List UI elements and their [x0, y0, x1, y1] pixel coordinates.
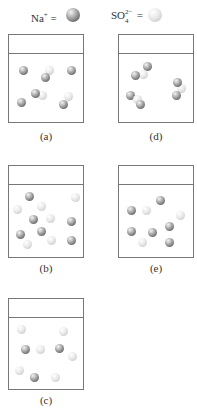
- so4-ion-icon: [176, 211, 185, 220]
- so4-equals: =: [137, 9, 143, 21]
- na-ion-icon: [165, 222, 174, 231]
- beaker-top-band: [119, 166, 193, 185]
- na-ion-icon: [16, 230, 25, 239]
- na-ion-icon: [37, 227, 46, 236]
- na-symbol: Na: [31, 12, 44, 24]
- so4-sphere-icon: [148, 8, 162, 22]
- panel-label-b: (b): [26, 262, 66, 274]
- na-charge: +: [44, 11, 48, 19]
- na-ion-icon: [17, 98, 26, 107]
- panel-label-d: (d): [136, 130, 176, 142]
- so4-ion-icon: [138, 238, 147, 247]
- na-ion-icon: [29, 215, 38, 224]
- so4-ion-icon: [142, 206, 151, 215]
- beaker-top-band: [9, 299, 83, 318]
- so4-ion-icon: [47, 236, 56, 245]
- na-equals: =: [51, 12, 57, 24]
- so4-ion-icon: [68, 352, 77, 361]
- so4-ion-icon: [46, 214, 55, 223]
- panel-label-a: (a): [26, 130, 66, 142]
- so4-ion-icon: [51, 373, 60, 382]
- na-ion-icon: [131, 71, 140, 80]
- na-ion-icon: [31, 89, 40, 98]
- na-ion-icon: [21, 345, 30, 354]
- so4-ion-icon: [23, 240, 32, 249]
- na-ion-icon: [67, 236, 76, 245]
- na-ion-icon: [25, 192, 34, 201]
- na-ion-icon: [19, 66, 28, 75]
- na-ion-icon: [41, 73, 50, 82]
- legend-na-label: Na+ =: [31, 9, 57, 24]
- so4-ion-icon: [17, 325, 26, 334]
- so4-ion-icon: [71, 193, 80, 202]
- na-ion-icon: [136, 100, 145, 109]
- beaker-top-band: [119, 35, 193, 54]
- so4-ion-icon: [37, 202, 46, 211]
- na-ion-icon: [148, 228, 157, 237]
- na-ion-icon: [165, 238, 174, 247]
- legend-so4-label: SO2−4 =: [111, 9, 143, 21]
- so4-ion-icon: [139, 70, 148, 79]
- beaker-top-band: [9, 35, 83, 54]
- na-ion-icon: [67, 66, 76, 75]
- na-ion-icon: [127, 227, 136, 236]
- na-ion-icon: [59, 100, 68, 109]
- so4-subscript: 4: [125, 15, 129, 27]
- na-ion-icon: [172, 91, 181, 100]
- so4-symbol: SO: [111, 9, 125, 21]
- so4-ion-icon: [13, 205, 22, 214]
- na-ion-icon: [173, 78, 182, 87]
- na-ion-icon: [67, 217, 76, 226]
- beaker-d: [118, 34, 194, 123]
- na-ion-icon: [30, 373, 39, 382]
- so4-ion-icon: [64, 92, 73, 101]
- panel-label-c: (c): [26, 394, 66, 406]
- na-sphere-icon: [66, 8, 80, 22]
- beaker-top-band: [9, 166, 83, 185]
- panel-label-e: (e): [136, 262, 176, 274]
- so4-ion-icon: [59, 327, 68, 336]
- na-ion-icon: [55, 344, 64, 353]
- na-ion-icon: [156, 196, 165, 205]
- beaker-c: [8, 298, 84, 390]
- so4-ion-icon: [15, 366, 24, 375]
- so4-ion-icon: [36, 345, 45, 354]
- na-ion-icon: [127, 206, 136, 215]
